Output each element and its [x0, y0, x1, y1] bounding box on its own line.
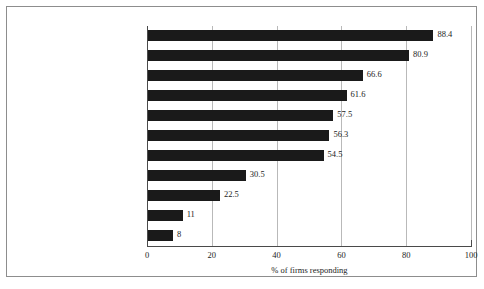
x-axis-cap-right [471, 240, 472, 247]
bar-row: 56.3 [147, 126, 471, 146]
bar-row: 11 [147, 206, 471, 226]
bar-value-label: 22.5 [224, 188, 239, 201]
bar-row: 30.5 [147, 166, 471, 186]
bar-value-label: 30.5 [250, 168, 265, 181]
x-axis-label: % of firms responding [147, 265, 472, 275]
bar [147, 90, 347, 101]
bar [147, 190, 220, 201]
bar-value-label: 57.5 [337, 108, 352, 121]
bar [147, 210, 183, 221]
bar-row: 8 [147, 226, 471, 246]
bar-row: 57.5 [147, 106, 471, 126]
x-axis-line [147, 246, 472, 247]
chart-figure: 88.480.966.661.657.556.354.530.522.5118 … [0, 0, 484, 289]
bar-value-label: 11 [187, 208, 195, 221]
x-tick-label: 40 [257, 250, 297, 260]
x-tick-label: 80 [386, 250, 426, 260]
bar-value-label: 61.6 [351, 88, 366, 101]
bar-row: 54.5 [147, 146, 471, 166]
bar [147, 50, 409, 61]
bar-row: 66.6 [147, 66, 471, 86]
bar [147, 150, 324, 161]
x-axis-cap-left [147, 240, 148, 247]
bar-value-label: 80.9 [413, 48, 428, 61]
y-axis-line [147, 26, 148, 247]
bar-row: 80.9 [147, 46, 471, 66]
bar-value-label: 66.6 [367, 68, 382, 81]
bar [147, 130, 329, 141]
bar-row: 22.5 [147, 186, 471, 206]
x-tick-label: 100 [451, 250, 484, 260]
bar-value-label: 8 [177, 228, 181, 241]
x-tick-label: 20 [192, 250, 232, 260]
bar-row: 88.4 [147, 26, 471, 46]
bar-value-label: 56.3 [333, 128, 348, 141]
bar [147, 230, 173, 241]
x-tick-label: 60 [321, 250, 361, 260]
bar-row: 61.6 [147, 86, 471, 106]
plot-area: 88.480.966.661.657.556.354.530.522.5118 [147, 26, 471, 246]
x-tick-label: 0 [127, 250, 167, 260]
bar [147, 170, 246, 181]
bar [147, 110, 333, 121]
bar-value-label: 54.5 [328, 148, 343, 161]
bar [147, 70, 363, 81]
bar [147, 30, 433, 41]
gridline [471, 26, 472, 246]
bar-value-label: 88.4 [437, 28, 452, 41]
figure-frame: 88.480.966.661.657.556.354.530.522.5118 … [6, 6, 477, 277]
